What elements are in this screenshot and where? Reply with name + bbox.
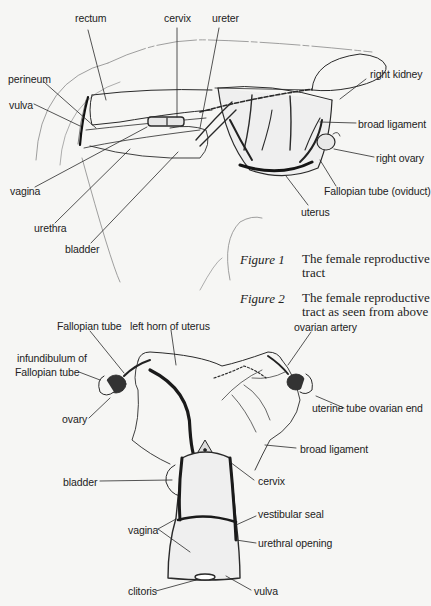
label-uterine-tube-end: uterine tube ovarian end [312, 402, 423, 414]
caption-figure2-text: The female reproductive tract as seen fr… [302, 291, 431, 319]
label-cervix: cervix [164, 12, 191, 24]
label-fallopian-tube: Fallopian tube (oviduct) [324, 185, 431, 197]
label-right-ovary: right ovary [376, 152, 424, 164]
label-urethra: urethra [34, 222, 67, 234]
label-infundibulum-line1: infundibulum of [17, 352, 87, 364]
label-ovary: ovary [62, 413, 87, 425]
label-broad-ligament: broad ligament [300, 443, 368, 455]
label-right-kidney: right kidney [370, 68, 423, 80]
label-bladder: bladder [63, 476, 97, 488]
label-vulva: vulva [9, 99, 33, 111]
label-vestibular-seal: vestibular seal [258, 508, 324, 520]
label-uterus: uterus [301, 206, 330, 218]
label-ovarian-artery: ovarian artery [294, 321, 357, 333]
caption-figure2-number: Figure 2 [240, 291, 285, 307]
label-broad-ligament: broad ligament [358, 118, 426, 130]
label-cervix: cervix [258, 475, 285, 487]
label-vulva: vulva [254, 585, 278, 597]
caption-figure1-text: The female reproductive tract [302, 252, 431, 280]
label-left-horn: left horn of uterus [130, 320, 210, 332]
leader-rectum [88, 30, 106, 100]
label-perineum: perineum [8, 73, 51, 85]
label-urethral-opening: urethral opening [258, 537, 332, 549]
label-fallopian-tube: Fallopian tube [57, 320, 122, 332]
label-rectum: rectum [75, 12, 107, 24]
label-infundibulum-line2: Fallopian tube [15, 366, 80, 378]
leader-ureter [200, 28, 219, 128]
label-bladder: bladder [65, 243, 99, 255]
label-vagina: vagina [10, 185, 40, 197]
label-ureter: ureter [212, 12, 239, 24]
label-vagina: vagina [128, 524, 158, 536]
label-clitoris: clitoris [128, 585, 157, 597]
figure2-drawing [79, 330, 344, 591]
caption-figure1-number: Figure 1 [240, 252, 285, 268]
